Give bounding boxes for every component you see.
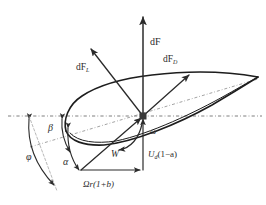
omega-label: ω xyxy=(150,126,156,136)
dF-D-subscript: D xyxy=(172,59,178,65)
U-factor: (1−a) xyxy=(158,149,178,159)
dF-L-label-group: dFL xyxy=(76,62,90,73)
U-axial-label-group: Ud(1−a) xyxy=(148,149,177,160)
airfoil-section xyxy=(65,72,258,145)
dF-label: dF xyxy=(150,36,161,47)
dF-D-label: dF xyxy=(163,54,173,64)
beta-label: β xyxy=(47,122,53,133)
diagram-labels: dF dFL dFD β α φ ω W Ud(1−a) Ωr(1+b) xyxy=(26,36,178,189)
origin-point xyxy=(140,113,147,120)
guide-lines xyxy=(8,79,262,147)
phi-label: φ xyxy=(26,151,32,162)
W-label: W xyxy=(111,149,120,159)
alpha-label: α xyxy=(63,156,69,167)
dF-D-label-group: dFD xyxy=(163,54,178,65)
alpha-arc xyxy=(68,128,79,170)
dF-L-vector xyxy=(91,49,143,116)
angle-arcs xyxy=(29,116,79,191)
omega-r-label: Ωr(1+b) xyxy=(83,179,114,189)
diagram-canvas: dF dFL dFD β α φ ω W Ud(1−a) Ωr(1+b) xyxy=(0,0,266,205)
dF-L-subscript: L xyxy=(85,67,90,73)
bem-force-diagram: dF dFL dFD β α φ ω W Ud(1−a) Ωr(1+b) xyxy=(0,0,266,205)
dF-D-vector xyxy=(143,75,189,116)
airfoil-upper-surface xyxy=(65,72,258,131)
dF-L-label: dF xyxy=(76,62,86,72)
force-vectors xyxy=(91,17,189,118)
